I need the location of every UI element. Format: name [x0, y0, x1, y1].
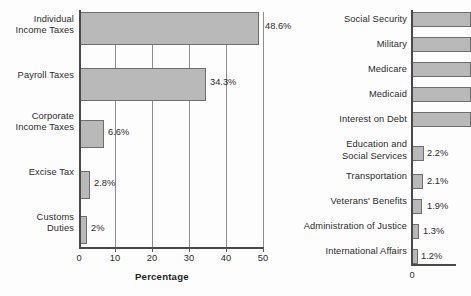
bar-transportation [411, 174, 423, 189]
category-label: International Affairs [325, 246, 407, 257]
category-label: Medicaid [369, 89, 407, 100]
x-tick [263, 248, 264, 252]
category-label: Social Security [344, 14, 407, 25]
category-label: Education and Social Services [342, 139, 407, 162]
category-label: Individual Income Taxes [16, 14, 74, 36]
bar-education-and-social-services [411, 146, 424, 161]
x-tick-label: 0 [402, 270, 422, 281]
x-axis-line-left [79, 247, 264, 249]
bar-value-label: 1.3% [423, 226, 444, 237]
bar-veterans-benefits [411, 199, 422, 214]
bar-value-label: 2.8% [94, 178, 115, 189]
category-label-group-right: Social Security Military Medicare Medica… [291, 0, 407, 270]
x-tick-label: 50 [253, 253, 273, 264]
bar-value-label: 2% [91, 223, 104, 234]
gridline [263, 12, 264, 247]
category-label: Administration of Justice [304, 221, 407, 232]
bar-value-label: 1.9% [427, 201, 448, 212]
category-label: Medicare [368, 64, 407, 75]
category-label: Transportation [346, 171, 407, 182]
x-tick [226, 248, 227, 252]
bar-value-label: 6.6% [108, 127, 129, 138]
bar-military [411, 37, 471, 52]
x-tick [152, 248, 153, 252]
chart-panel-revenue-sources: Individual Income Taxes Payroll Taxes Co… [0, 0, 290, 296]
category-label: Military [377, 39, 407, 50]
bar-value-label: 1.2% [421, 251, 442, 262]
bar-excise-tax [79, 171, 90, 199]
gridline [152, 12, 153, 247]
plot-area-left: 48.6% 34.3% 6.6% 2.8% 2% [79, 10, 264, 248]
x-axis-title-left: Percentage [135, 271, 189, 282]
y-axis-line-right [411, 10, 413, 266]
category-label: Corporate Income Taxes [16, 111, 74, 133]
category-label: Customs Duties [37, 212, 74, 234]
bar-value-label: 2.2% [427, 148, 448, 159]
x-tick-label: 0 [69, 253, 89, 264]
bar-medicare [411, 62, 471, 77]
x-axis-line-right [411, 264, 456, 266]
category-label-group-left: Individual Income Taxes Payroll Taxes Co… [0, 0, 74, 250]
bar-individual-income-taxes [79, 12, 259, 45]
bar-interest-on-debt [411, 112, 471, 127]
x-tick [189, 248, 190, 252]
gridline [226, 12, 227, 247]
bar-social-security [411, 12, 471, 27]
x-tick-label: 30 [179, 253, 199, 264]
bar-value-label: 34.3% [210, 77, 236, 88]
category-label: Interest on Debt [339, 114, 407, 125]
x-tick-label: 40 [216, 253, 236, 264]
plot-area-right: 2.2% 2.1% 1.9% 1.3% 1.2% [411, 10, 456, 266]
bar-value-label: 2.1% [427, 176, 448, 187]
x-tick-label: 10 [105, 253, 125, 264]
chart-panel-spending-categories: Social Security Military Medicare Medica… [296, 0, 456, 296]
bar-payroll-taxes [79, 68, 206, 101]
bar-value-label: 48.6% [265, 21, 291, 32]
category-label: Payroll Taxes [18, 70, 74, 81]
category-label: Veterans' Benefits [331, 196, 407, 207]
category-label: Excise Tax [29, 167, 74, 178]
x-tick-label: 20 [142, 253, 162, 264]
x-tick [115, 248, 116, 252]
y-axis-line-left [79, 10, 81, 248]
bar-corporate-income-taxes [79, 120, 104, 148]
gridline [189, 12, 190, 247]
bar-medicaid [411, 87, 471, 102]
